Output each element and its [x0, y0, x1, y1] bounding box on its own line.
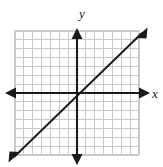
- coordinate-plane-figure: y x: [0, 0, 163, 167]
- x-axis-label: x: [151, 86, 158, 101]
- graph-canvas: y x: [0, 0, 163, 167]
- y-axis-label: y: [77, 6, 85, 21]
